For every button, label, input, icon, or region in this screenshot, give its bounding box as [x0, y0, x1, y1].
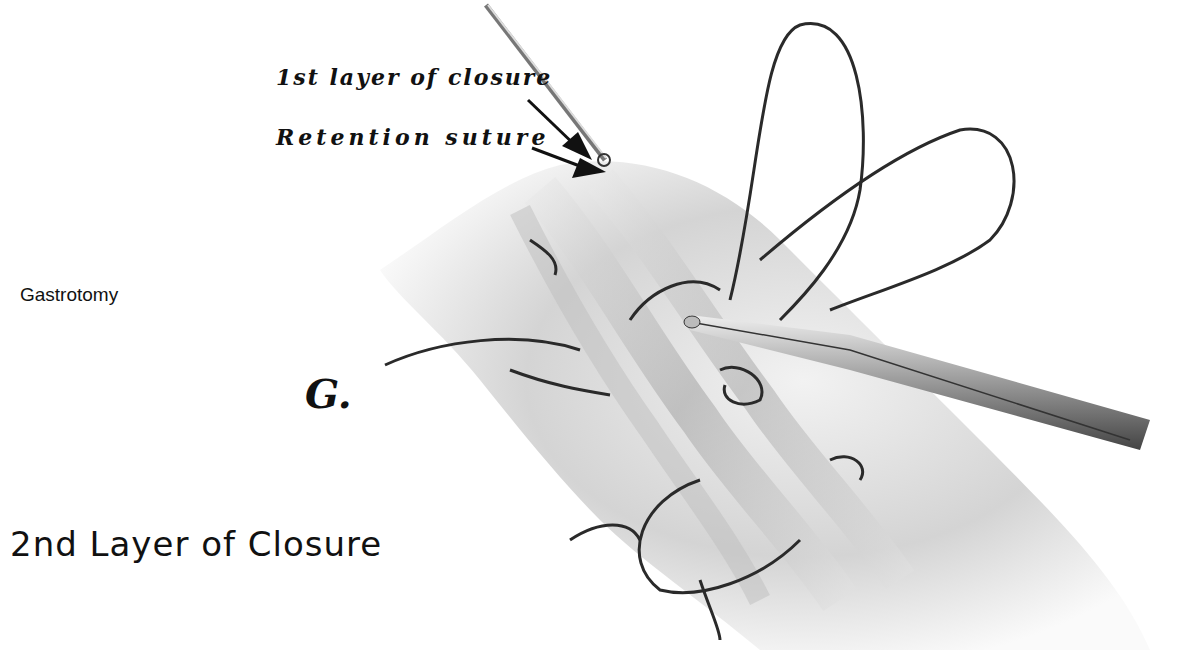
panel-letter: G.	[305, 370, 352, 417]
illustration-canvas: 1st layer of closure Retention suture Ga…	[0, 0, 1182, 662]
section-label: Gastrotomy	[20, 284, 118, 306]
callout-retention-suture: Retention suture	[276, 124, 549, 150]
callout-first-layer: 1st layer of closure	[276, 64, 552, 90]
figure-caption: 2nd Layer of Closure	[10, 524, 382, 564]
